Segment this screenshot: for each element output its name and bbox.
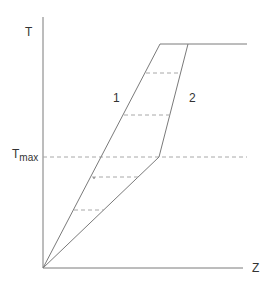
curve-2 <box>43 44 188 268</box>
diagram-canvas <box>0 0 272 286</box>
curve-1 <box>43 44 160 268</box>
curve-2-label: 2 <box>189 92 196 104</box>
tmax-label-sub: max <box>19 152 38 163</box>
marker-dot <box>93 177 95 179</box>
tmax-label: Tmax <box>12 148 38 160</box>
y-axis-label: T <box>25 26 32 38</box>
x-axis-label: Z <box>252 262 259 274</box>
curve-1-label: 1 <box>113 92 120 104</box>
